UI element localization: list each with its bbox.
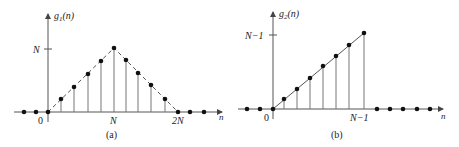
x-tick-label-0: 0: [38, 115, 43, 126]
caption-a: (a): [106, 129, 117, 141]
y-tick-label: N−1: [244, 30, 263, 41]
x-tick-label-2n: 2N: [172, 115, 185, 126]
stems: [61, 48, 165, 112]
panel-a: g1(n) N 0 N 2N n (a): [14, 10, 224, 141]
x-axis-label: n: [441, 111, 446, 121]
y-axis-label: g2(n): [279, 8, 300, 21]
caption-b: (b): [331, 129, 343, 141]
triangle-envelope: [48, 48, 178, 112]
x-axis-label: n: [219, 112, 224, 122]
stems: [284, 33, 364, 109]
x-tick-label-0: 0: [264, 112, 269, 123]
figure: g1(n) N 0 N 2N n (a): [0, 0, 459, 147]
x-tick-label-n-minus-1: N−1: [349, 112, 368, 123]
panel-b: g2(n) N−1 0 N−1 n (b): [238, 8, 446, 141]
y-axis-label: g1(n): [54, 10, 75, 23]
y-tick-label: N: [32, 44, 41, 55]
x-tick-label-n: N: [109, 115, 118, 126]
